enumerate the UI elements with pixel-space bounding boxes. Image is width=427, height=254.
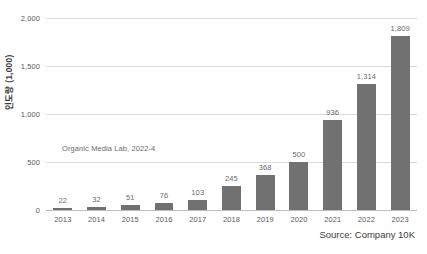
bar-value-label: 76: [160, 191, 169, 200]
bar[interactable]: [87, 207, 106, 210]
bar-value-label: 936: [326, 108, 339, 117]
bar-group: 9362021: [316, 18, 350, 210]
bar[interactable]: [289, 162, 308, 210]
bar[interactable]: [53, 208, 72, 210]
plot-area: 05001,0001,5002,000 22201332201451201576…: [46, 18, 417, 210]
bar-value-label: 245: [225, 174, 238, 183]
bar-value-label: 1,314: [357, 72, 376, 81]
bar-group: 3682019: [248, 18, 282, 210]
axis-baseline: [46, 210, 417, 211]
y-axis-title: 인도량 (1,000): [2, 96, 14, 110]
y-axis-tick-label: 1,500: [21, 62, 40, 71]
bar[interactable]: [222, 186, 241, 210]
bar-value-label: 32: [92, 195, 101, 204]
x-axis-tick-label: 2023: [392, 215, 409, 224]
bar-group: 2452018: [215, 18, 249, 210]
bar[interactable]: [391, 36, 410, 210]
bar-group: 762016: [147, 18, 181, 210]
bar-value-label: 500: [293, 150, 306, 159]
x-axis-tick-label: 2020: [290, 215, 307, 224]
x-axis-tick-label: 2015: [122, 215, 139, 224]
bar-group: 1032017: [181, 18, 215, 210]
x-axis-tick-label: 2013: [54, 215, 71, 224]
bar-group: 1,3142022: [350, 18, 384, 210]
y-axis-tick-label: 500: [27, 158, 40, 167]
x-axis-tick-label: 2018: [223, 215, 240, 224]
x-axis-tick-label: 2017: [189, 215, 206, 224]
bar-value-label: 1,809: [390, 24, 409, 33]
bar[interactable]: [155, 203, 174, 210]
x-axis-tick-label: 2022: [358, 215, 375, 224]
bar-group: 322014: [80, 18, 114, 210]
bar-series: 2220133220145120157620161032017245201836…: [46, 18, 417, 210]
x-axis-tick-label: 2021: [324, 215, 341, 224]
bar-value-label: 368: [259, 163, 272, 172]
y-axis-tick-label: 2,000: [21, 14, 40, 23]
bar[interactable]: [323, 120, 342, 210]
bar-group: 512015: [113, 18, 147, 210]
y-axis-tick-label: 0: [36, 206, 40, 215]
bar[interactable]: [121, 205, 140, 210]
bar-value-label: 103: [191, 188, 204, 197]
bar-value-label: 51: [126, 193, 135, 202]
y-axis-tick-label: 1,000: [21, 110, 40, 119]
source-credit: Source: Company 10K: [319, 229, 415, 240]
bar[interactable]: [357, 84, 376, 210]
bar[interactable]: [256, 175, 275, 210]
bar-group: 1,8092023: [383, 18, 417, 210]
bar-value-label: 22: [59, 196, 68, 205]
x-axis-tick-label: 2019: [257, 215, 274, 224]
bar-group: 222013: [46, 18, 80, 210]
bar[interactable]: [188, 200, 207, 210]
bar-group: 5002020: [282, 18, 316, 210]
x-axis-tick-label: 2016: [155, 215, 172, 224]
chart-page: 인도량 (1,000) 05001,0001,5002,000 22201332…: [0, 0, 427, 254]
x-axis-tick-label: 2014: [88, 215, 105, 224]
chart-annotation: Organic Media Lab, 2022-4: [62, 144, 155, 153]
